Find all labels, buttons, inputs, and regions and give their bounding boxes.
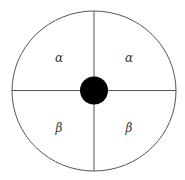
quadrant-label-bottom-right: β [125,121,133,135]
quadrant-label-top-left: α [55,51,63,65]
quadrant-label-bottom-left: β [55,121,63,135]
quadrant-diagram: α α β β [0,0,185,180]
center-dot [80,77,108,105]
quadrant-label-top-right: α [125,51,133,65]
